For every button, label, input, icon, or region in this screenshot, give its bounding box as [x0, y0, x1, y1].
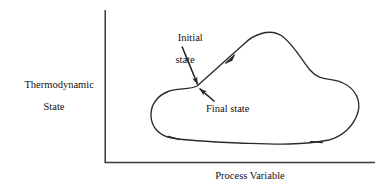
initial-state-label: Initial state: [158, 21, 212, 87]
x-axis-label: Process Variable: [170, 170, 330, 181]
y-axis-label: Thermodynamic State: [8, 68, 100, 134]
y-axis-label-line2: State: [8, 101, 100, 112]
y-axis-label-line1: Thermodynamic: [24, 79, 93, 90]
thermodynamic-cycle-figure: Thermodynamic State Process Variable Ini…: [0, 0, 379, 190]
final-state-label: Final state: [206, 103, 249, 114]
axis-lines: [105, 10, 375, 162]
initial-state-label-line1: Initial: [178, 32, 203, 43]
final-state-leader-line: [200, 89, 215, 102]
initial-state-label-line2: state: [158, 54, 212, 65]
